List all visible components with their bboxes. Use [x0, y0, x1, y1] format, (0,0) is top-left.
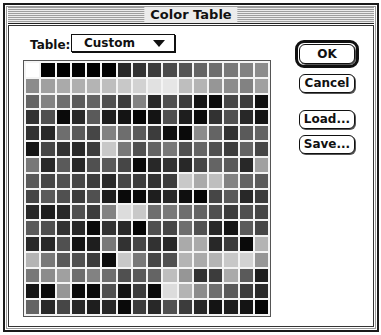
color-swatch[interactable] — [255, 110, 268, 124]
color-swatch[interactable] — [209, 284, 222, 298]
color-swatch[interactable] — [179, 190, 192, 204]
color-swatch[interactable] — [224, 95, 237, 109]
color-swatch[interactable] — [102, 63, 115, 77]
color-swatch[interactable] — [148, 205, 161, 219]
color-swatch[interactable] — [133, 158, 146, 172]
color-swatch[interactable] — [240, 79, 253, 93]
title-bar[interactable]: Color Table — [8, 7, 374, 24]
color-swatch[interactable] — [179, 95, 192, 109]
color-swatch[interactable] — [87, 79, 100, 93]
color-swatch[interactable] — [87, 142, 100, 156]
color-swatch[interactable] — [163, 174, 176, 188]
color-swatch[interactable] — [118, 79, 131, 93]
color-swatch[interactable] — [148, 221, 161, 235]
color-swatch[interactable] — [148, 174, 161, 188]
color-swatch[interactable] — [72, 253, 85, 267]
color-swatch[interactable] — [163, 79, 176, 93]
color-swatch[interactable] — [209, 300, 222, 314]
color-swatch[interactable] — [26, 269, 39, 283]
color-swatch[interactable] — [255, 142, 268, 156]
color-swatch[interactable] — [224, 126, 237, 140]
color-swatch[interactable] — [240, 190, 253, 204]
color-swatch[interactable] — [102, 158, 115, 172]
color-swatch[interactable] — [102, 174, 115, 188]
color-swatch[interactable] — [102, 110, 115, 124]
color-swatch[interactable] — [194, 253, 207, 267]
color-swatch[interactable] — [148, 126, 161, 140]
color-swatch[interactable] — [194, 221, 207, 235]
color-swatch[interactable] — [26, 158, 39, 172]
color-swatch[interactable] — [255, 237, 268, 251]
color-swatch[interactable] — [102, 126, 115, 140]
color-swatch[interactable] — [57, 205, 70, 219]
color-swatch-grid[interactable] — [23, 60, 271, 317]
color-swatch[interactable] — [118, 174, 131, 188]
color-swatch[interactable] — [102, 190, 115, 204]
color-swatch[interactable] — [102, 79, 115, 93]
save-button[interactable]: Save... — [299, 135, 355, 154]
color-swatch[interactable] — [209, 95, 222, 109]
color-swatch[interactable] — [72, 300, 85, 314]
color-swatch[interactable] — [57, 190, 70, 204]
color-swatch[interactable] — [26, 190, 39, 204]
color-swatch[interactable] — [163, 158, 176, 172]
color-swatch[interactable] — [224, 300, 237, 314]
color-swatch[interactable] — [148, 110, 161, 124]
color-swatch[interactable] — [57, 300, 70, 314]
color-swatch[interactable] — [26, 110, 39, 124]
color-swatch[interactable] — [133, 253, 146, 267]
color-swatch[interactable] — [224, 79, 237, 93]
color-swatch[interactable] — [118, 190, 131, 204]
color-swatch[interactable] — [41, 158, 54, 172]
color-swatch[interactable] — [133, 300, 146, 314]
color-swatch[interactable] — [163, 284, 176, 298]
color-swatch[interactable] — [224, 221, 237, 235]
color-swatch[interactable] — [102, 237, 115, 251]
color-swatch[interactable] — [72, 205, 85, 219]
color-swatch[interactable] — [118, 63, 131, 77]
color-swatch[interactable] — [72, 95, 85, 109]
color-swatch[interactable] — [57, 142, 70, 156]
color-swatch[interactable] — [179, 237, 192, 251]
color-swatch[interactable] — [133, 79, 146, 93]
color-swatch[interactable] — [255, 79, 268, 93]
color-swatch[interactable] — [102, 221, 115, 235]
color-swatch[interactable] — [240, 142, 253, 156]
color-swatch[interactable] — [41, 95, 54, 109]
color-swatch[interactable] — [57, 95, 70, 109]
color-swatch[interactable] — [194, 190, 207, 204]
color-swatch[interactable] — [194, 205, 207, 219]
color-swatch[interactable] — [133, 190, 146, 204]
color-swatch[interactable] — [148, 269, 161, 283]
color-swatch[interactable] — [209, 253, 222, 267]
color-swatch[interactable] — [87, 158, 100, 172]
color-swatch[interactable] — [148, 237, 161, 251]
color-swatch[interactable] — [194, 174, 207, 188]
color-swatch[interactable] — [57, 174, 70, 188]
color-swatch[interactable] — [179, 110, 192, 124]
color-swatch[interactable] — [72, 158, 85, 172]
color-swatch[interactable] — [133, 63, 146, 77]
color-swatch[interactable] — [72, 174, 85, 188]
color-swatch[interactable] — [26, 300, 39, 314]
color-swatch[interactable] — [224, 284, 237, 298]
color-swatch[interactable] — [163, 221, 176, 235]
color-swatch[interactable] — [133, 126, 146, 140]
color-swatch[interactable] — [87, 190, 100, 204]
color-swatch[interactable] — [118, 110, 131, 124]
color-swatch[interactable] — [72, 190, 85, 204]
color-swatch[interactable] — [72, 63, 85, 77]
color-swatch[interactable] — [57, 79, 70, 93]
color-swatch[interactable] — [72, 110, 85, 124]
color-swatch[interactable] — [240, 63, 253, 77]
color-swatch[interactable] — [163, 190, 176, 204]
color-swatch[interactable] — [224, 253, 237, 267]
color-swatch[interactable] — [163, 126, 176, 140]
color-swatch[interactable] — [41, 110, 54, 124]
color-swatch[interactable] — [118, 95, 131, 109]
color-swatch[interactable] — [224, 158, 237, 172]
color-swatch[interactable] — [224, 63, 237, 77]
color-swatch[interactable] — [194, 269, 207, 283]
color-swatch[interactable] — [194, 110, 207, 124]
color-swatch[interactable] — [179, 253, 192, 267]
